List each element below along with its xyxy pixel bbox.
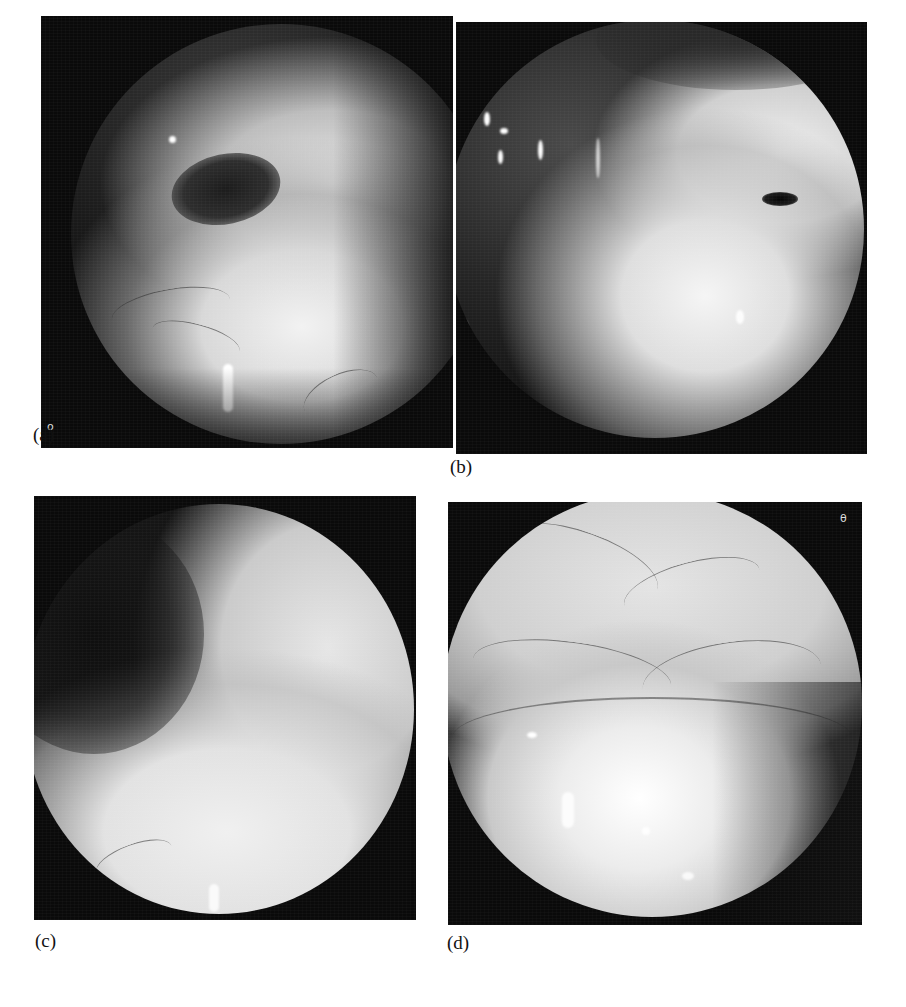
figure-panel-a: o: [41, 16, 453, 448]
specular-highlight: [169, 136, 176, 143]
specular-reflection: [562, 792, 574, 828]
shadow-region: [596, 22, 864, 90]
panel-label-d: (d): [447, 932, 469, 954]
dark-orifice: [762, 192, 798, 206]
endoscope-view-b: [456, 22, 864, 438]
panel-label-c: (c): [35, 930, 56, 952]
specular-highlight: [527, 732, 537, 738]
endoscope-view-c: [34, 504, 414, 914]
bubble-reflection: [484, 112, 490, 126]
blood-vessel: [618, 545, 766, 630]
blood-vessel: [91, 831, 177, 887]
figure-panel-d: θ: [448, 502, 862, 925]
figure-panel-c: [34, 496, 416, 920]
specular-reflection: [209, 884, 219, 912]
figure-panel-b: [456, 22, 867, 454]
specular-reflection: [736, 310, 744, 324]
shadow-region: [34, 514, 204, 754]
bubble-reflection: [500, 128, 508, 134]
bubble-reflection: [460, 320, 468, 336]
dark-orifice: [165, 143, 287, 234]
corner-mark: θ: [840, 512, 847, 525]
bubble-reflection: [538, 140, 543, 160]
specular-reflection: [596, 138, 600, 178]
specular-highlight: [642, 827, 650, 835]
panel-label-b: (b): [450, 456, 472, 478]
panel-label-a: (a): [33, 424, 54, 446]
specular-highlight: [682, 872, 694, 880]
bubble-reflection: [498, 150, 503, 164]
